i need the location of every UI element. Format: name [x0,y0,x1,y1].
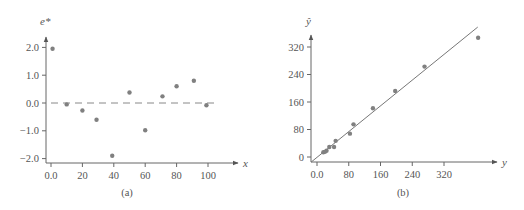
chart-b-data-point [393,89,397,93]
chart-b-data-point [348,131,352,135]
chart-b-data-point [324,149,328,153]
chart-a-data-point [174,84,178,88]
chart-a-y-tick-label: −2.0 [20,153,39,164]
chart-b-y-tick-label: 320 [288,42,304,53]
chart-a-x-tick-label: 20 [77,170,88,181]
chart-a-ylabel: e* [40,15,51,27]
chart-b-data-point [422,64,426,68]
chart-b-ylabel: ŷ [305,15,311,27]
chart-a-y-tick-label: 1.0 [26,70,39,81]
chart-b-data-point [371,106,375,110]
chart-a-marks: 0.020406080100−2.0−1.00.01.02.0 [20,37,238,181]
chart-b-y-tick-label: 0 [299,152,304,163]
chart-a-y-tick-label: 0.0 [26,98,39,109]
chart-a-x-tick-label: 80 [171,170,182,181]
chart-a-data-point [50,47,54,51]
chart-a-data-point [204,103,208,107]
chart-b-x-tick-label: 320 [436,169,452,180]
figure: 0.020406080100−2.0−1.00.01.02.0 e* x (a)… [0,0,524,210]
chart-a-data-point [127,90,131,94]
chart-b-data-point [476,36,480,40]
chart-a-data-point [110,154,114,158]
chart-a-data-point [143,128,147,132]
chart-b-y-tick-label: 80 [294,124,305,135]
chart-a-data-point [160,94,164,98]
chart-a-y-tick-label: −1.0 [20,125,39,136]
chart-b-data-point [351,122,355,126]
chart-b-y-tick-label: 160 [288,97,304,108]
chart-a-x-tick-label: 40 [109,170,120,181]
chart-b-panel-label: (b) [397,187,410,199]
chart-a-data-point [80,108,84,112]
chart-a-y-tick-label: 2.0 [26,42,39,53]
chart-b-x-tick-label: 0.0 [310,169,323,180]
chart-a-x-tick-label: 0.0 [44,170,57,181]
chart-b-data-point [333,139,337,143]
chart-b-xlabel: y [501,156,507,168]
chart-b-marks: 0.080160240320080160240320 [288,27,497,180]
chart-b-data-point [327,145,331,149]
chart-b-x-tick-label: 160 [373,169,389,180]
chart-b-data-point [332,145,336,149]
chart-b-x-tick-label: 80 [344,169,355,180]
chart-a-data-point [94,117,98,121]
chart-a-x-tick-label: 100 [200,170,216,181]
chart-a-x-tick-label: 60 [140,170,151,181]
chart-b: 0.080160240320080160240320 ŷ y (b) [288,15,507,199]
chart-a-data-point [65,102,69,106]
chart-a-xlabel: x [242,157,248,169]
chart-a-panel-label: (a) [121,187,133,199]
chart-a-data-point [192,79,196,83]
chart-b-y-tick-label: 240 [288,69,304,80]
chart-a: 0.020406080100−2.0−1.00.01.02.0 e* x (a) [20,15,248,199]
chart-b-x-tick-label: 240 [404,169,420,180]
